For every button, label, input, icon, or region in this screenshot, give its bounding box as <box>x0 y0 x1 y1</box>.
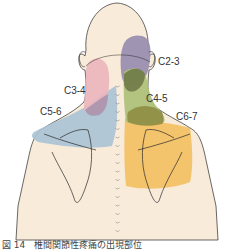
label-c4-5: C4-5 <box>146 93 168 104</box>
region-c6-7 <box>124 118 192 189</box>
label-c2-3: C2-3 <box>158 56 180 67</box>
label-c5-6: C5-6 <box>40 106 62 117</box>
figure-caption: 図 14 椎間関節性疼痛の出現部位 <box>2 240 142 250</box>
label-c3-4: C3-4 <box>64 85 86 96</box>
label-c6-7: C6-7 <box>176 111 198 122</box>
